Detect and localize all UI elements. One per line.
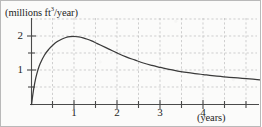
- x-tick-label-3: 3: [154, 107, 166, 118]
- y-tick-label-2: 2: [11, 30, 23, 41]
- x-tick-label-2: 2: [111, 107, 123, 118]
- chart-figure: (millions ft3/year) (years) 2 1 1 2 3 4: [0, 0, 261, 127]
- data-curve: [32, 36, 262, 104]
- y-axis-label: (millions ft3/year): [5, 6, 78, 18]
- y-tick-label-1: 1: [11, 64, 23, 75]
- y-axis-label-suffix: /year): [54, 7, 78, 18]
- plot-area: [1, 1, 261, 127]
- grid-vertical: [53, 18, 247, 104]
- x-tick-label-4: 4: [197, 107, 209, 118]
- x-tick-label-1: 1: [68, 107, 80, 118]
- y-axis-label-prefix: (millions ft: [5, 7, 51, 18]
